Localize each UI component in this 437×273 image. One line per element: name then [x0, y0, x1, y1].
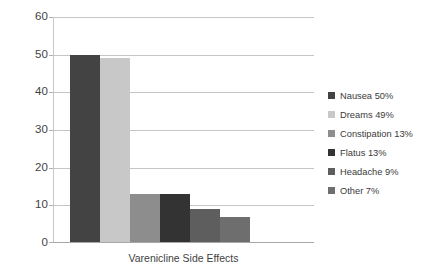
- y-axis-tick-label: 60: [4, 11, 48, 23]
- legend-swatch-icon: [328, 111, 335, 118]
- y-axis-tick-label: 20: [4, 162, 48, 174]
- legend-swatch-icon: [328, 130, 335, 137]
- legend-item: Headache 9%: [328, 162, 434, 181]
- bar: [70, 55, 100, 242]
- legend-item-label: Constipation 13%: [340, 129, 413, 139]
- bar: [190, 209, 220, 242]
- y-axis-tick-label: 0: [4, 237, 48, 249]
- legend-item: Other 7%: [328, 181, 434, 200]
- y-axis-tick-label: 40: [4, 86, 48, 98]
- legend-swatch-icon: [328, 168, 335, 175]
- legend-swatch-icon: [328, 92, 335, 99]
- legend-item-label: Flatus 13%: [340, 148, 387, 158]
- y-axis-tick-label: 30: [4, 124, 48, 136]
- legend-swatch-icon: [328, 187, 335, 194]
- legend-item: Nausea 50%: [328, 86, 434, 105]
- legend-item: Dreams 49%: [328, 105, 434, 124]
- x-axis-title: Varenicline Side Effects: [53, 252, 314, 265]
- bar-chart: 0102030405060 Varenicline Side Effects N…: [0, 0, 437, 273]
- legend-item-label: Headache 9%: [340, 167, 398, 177]
- y-axis: 0102030405060: [0, 17, 48, 243]
- legend: Nausea 50%Dreams 49%Constipation 13%Flat…: [328, 86, 434, 200]
- legend-item-label: Other 7%: [340, 186, 379, 196]
- bars: [53, 17, 314, 243]
- plot-area: [53, 17, 314, 243]
- bar: [130, 194, 160, 242]
- bar: [160, 194, 190, 242]
- bar: [100, 58, 130, 242]
- bar: [220, 217, 250, 242]
- y-axis-tick-label: 10: [4, 199, 48, 211]
- legend-item: Constipation 13%: [328, 124, 434, 143]
- y-axis-tick-label: 50: [4, 49, 48, 61]
- legend-item-label: Nausea 50%: [340, 91, 393, 101]
- legend-item-label: Dreams 49%: [340, 110, 394, 120]
- legend-swatch-icon: [328, 149, 335, 156]
- legend-item: Flatus 13%: [328, 143, 434, 162]
